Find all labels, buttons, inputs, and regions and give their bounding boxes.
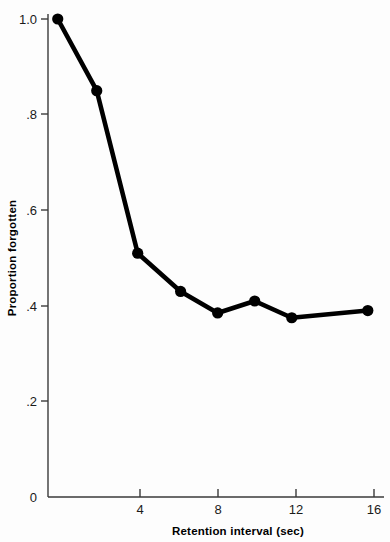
x-tick-label: 4 [136, 502, 143, 517]
data-point [212, 307, 223, 318]
chart-page: 1.0 .8 .6 .4 .2 0 4 8 12 16 Retention in… [0, 0, 390, 542]
line-chart: 1.0 .8 .6 .4 .2 0 4 8 12 16 Retention in… [0, 0, 390, 542]
series-markers [52, 13, 373, 323]
data-point [286, 312, 297, 323]
y-tick-label: 1.0 [19, 12, 37, 27]
x-tick-label: 16 [367, 502, 381, 517]
x-axis-ticks: 4 8 12 16 [136, 489, 381, 517]
y-tick-label: .2 [26, 394, 37, 409]
data-point [249, 295, 260, 306]
data-point [132, 248, 143, 259]
y-tick-label: .8 [26, 107, 37, 122]
y-tick-label: 0 [30, 490, 37, 505]
x-axis-title: Retention interval (sec) [172, 525, 304, 537]
y-tick-label: .4 [26, 299, 37, 314]
y-axis-title: Proportion forgotten [6, 200, 18, 316]
y-axis-ticks: 1.0 .8 .6 .4 .2 0 [19, 12, 48, 505]
data-point [175, 286, 186, 297]
data-point [91, 85, 102, 96]
x-tick-label: 12 [289, 502, 303, 517]
y-tick-label: .6 [26, 203, 37, 218]
data-point [362, 305, 373, 316]
data-point [52, 13, 63, 24]
series-line-proportion-forgotten [58, 19, 368, 318]
x-tick-label: 8 [214, 502, 221, 517]
